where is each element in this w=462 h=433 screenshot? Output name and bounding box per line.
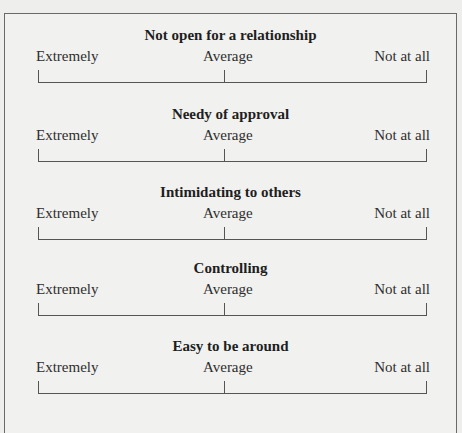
scale-mid-tick: [224, 303, 225, 315]
scale-mid-label: Average: [203, 126, 253, 144]
scale-title: Intimidating to others: [5, 183, 456, 201]
scale-axis-line[interactable]: [38, 381, 427, 394]
scale-left-label: Extremely: [36, 47, 98, 65]
scale-right-label: Not at all: [374, 204, 430, 222]
scale-axis-line[interactable]: [38, 303, 427, 316]
scale-right-label: Not at all: [374, 358, 430, 376]
scale-axis-line[interactable]: [38, 227, 427, 240]
scale-mid-label: Average: [203, 358, 253, 376]
scale-right-label: Not at all: [374, 280, 430, 298]
scale-mid-tick: [224, 381, 225, 393]
scale-mid-tick: [224, 70, 225, 82]
scale-axis-line[interactable]: [38, 149, 427, 162]
scale-left-label: Extremely: [36, 126, 98, 144]
rating-scale-not-open: Not open for a relationship Extremely Av…: [5, 26, 456, 96]
rating-scales-box: Not open for a relationship Extremely Av…: [4, 13, 457, 433]
scale-title: Not open for a relationship: [5, 26, 456, 44]
scale-right-label: Not at all: [374, 47, 430, 65]
scale-mid-label: Average: [203, 280, 253, 298]
scale-mid-label: Average: [203, 47, 253, 65]
scale-left-label: Extremely: [36, 358, 98, 376]
scale-left-label: Extremely: [36, 280, 98, 298]
scale-mid-tick: [224, 149, 225, 161]
scale-mid-label: Average: [203, 204, 253, 222]
scale-mid-tick: [224, 227, 225, 239]
scale-left-label: Extremely: [36, 204, 98, 222]
scale-title: Needy of approval: [5, 105, 456, 123]
scale-title: Controlling: [5, 259, 456, 277]
scale-title: Easy to be around: [5, 337, 456, 355]
rating-scale-intimidating: Intimidating to others Extremely Average…: [5, 183, 456, 253]
scale-axis-line[interactable]: [38, 70, 427, 83]
rating-scale-controlling: Controlling Extremely Average Not at all: [5, 259, 456, 329]
rating-scale-needy: Needy of approval Extremely Average Not …: [5, 105, 456, 175]
rating-scale-easy-to-be-around: Easy to be around Extremely Average Not …: [5, 337, 456, 407]
scale-right-label: Not at all: [374, 126, 430, 144]
